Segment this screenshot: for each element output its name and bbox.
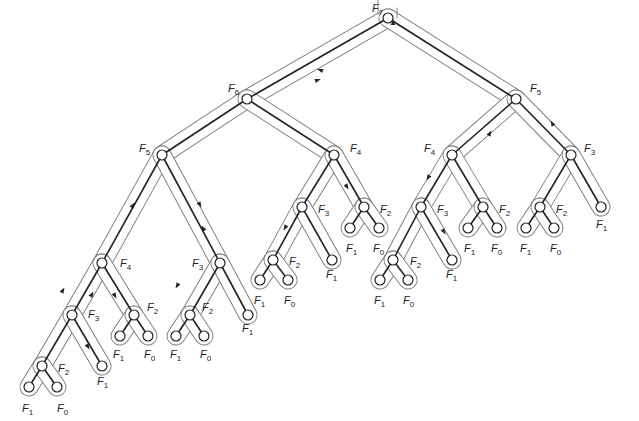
tree-edge [516,99,571,155]
tree-node [416,202,426,212]
arrow-icon [60,286,67,293]
node-label: F1 [326,268,338,283]
tree-node [67,310,77,320]
tree-node [143,331,153,341]
tree-node [383,13,393,23]
tree-node [359,202,369,212]
node-label: F1 [113,348,125,363]
tree-edge [247,18,388,99]
tree-edge [452,99,516,155]
node-label: F4 [424,142,436,157]
node-label: F1 [97,375,109,390]
tree-edge [388,18,516,99]
tree-node [129,310,139,320]
tree-edge [162,155,220,263]
tree-node [388,255,398,265]
node-label: F1 [374,294,386,309]
node-label: F5 [530,82,542,97]
tree-edge [102,155,162,263]
tree-node [171,331,181,341]
node-label: F3 [437,203,449,218]
euler-tour-contour [29,18,601,387]
node-label: F0 [284,294,296,309]
tree-edge [247,99,334,155]
node-label: F4 [350,142,362,157]
tree-node [463,223,473,233]
tree-node [329,150,339,160]
tree-node [24,382,34,392]
tree-node [268,255,278,265]
node-label: F1 [446,268,458,283]
node-label: F3 [88,308,100,323]
node-label: F1 [464,242,476,257]
node-label: F3 [584,142,596,157]
tree-node [403,275,413,285]
tree-node [255,275,265,285]
node-label: F5 [139,142,151,157]
fibonacci-tree-diagram: F7F6F5F5F4F4F3F3F2F2F1F1F0F1F0F2F1F1F0F3… [0,0,639,421]
node-label: F1 [520,242,532,257]
tree-node [374,223,384,233]
node-label: F1 [254,294,266,309]
arrow-icon [174,282,181,289]
node-label: F0 [144,348,156,363]
node-label: F0 [403,294,415,309]
tree-node [199,331,209,341]
node-label: F1 [596,218,608,233]
tree-edge [302,155,334,207]
tree-edge [162,99,247,155]
node-label: F2 [499,203,511,218]
tree-node [447,255,457,265]
node-label: F0 [200,348,212,363]
node-label: F0 [491,242,503,257]
tree-node [327,255,337,265]
node-label: F2 [289,255,301,270]
node-label: F3 [318,203,330,218]
node-label: F0 [373,242,385,257]
tree-node [242,94,252,104]
node-label: F1 [242,322,254,337]
node-label: F2 [556,203,568,218]
node-label: F4 [120,257,132,272]
tree-node [243,310,253,320]
tree-node [215,258,225,268]
tree-node [115,331,125,341]
node-label: F6 [228,82,240,97]
tree-node [345,223,355,233]
tree-node [97,361,107,371]
tree-node [521,223,531,233]
arrow-icon [314,77,321,83]
tree-node [375,275,385,285]
tree-node [185,310,195,320]
node-label: F0 [550,242,562,257]
node-label: F0 [57,402,69,417]
tree-node [566,150,576,160]
node-label: F1 [22,402,34,417]
tree-node [549,223,559,233]
tree-node [52,382,62,392]
node-label: F2 [202,301,214,316]
node-label: F3 [192,257,204,272]
tree-node [297,202,307,212]
tree-node [478,202,488,212]
tree-node [283,275,293,285]
tree-node [492,223,502,233]
node-label: F1 [346,242,358,257]
tree-node [157,150,167,160]
tree-node [97,258,107,268]
tree-node [511,94,521,104]
tree-node [37,361,47,371]
tree-node [596,202,606,212]
node-label: F2 [410,255,422,270]
tree-node [447,150,457,160]
node-label: F1 [170,348,182,363]
tree-node [535,202,545,212]
node-label: F2 [147,301,159,316]
